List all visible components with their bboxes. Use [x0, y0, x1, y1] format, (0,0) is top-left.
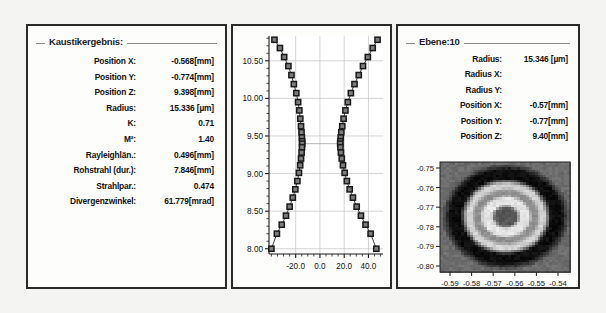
- caustic-field-row: Strahlpar.:0.474: [32, 181, 219, 197]
- data-point-marker: [295, 178, 300, 183]
- profile-x-tick-label: -0.54: [549, 279, 566, 287]
- caustic-panel-title: Kaustikergebnis:: [45, 36, 127, 47]
- y-axis-tick-label: 9.00: [247, 170, 263, 179]
- caustic-field-row: K:0.71: [32, 118, 219, 134]
- caustic-field-label: Position X:: [32, 56, 144, 66]
- plane-field-label: Radius:: [398, 54, 510, 64]
- caustic-field-label: K:: [32, 118, 144, 128]
- profile-y-tick-label: -0.77: [417, 203, 434, 212]
- caustic-plot-area[interactable]: 8.008.509.009.5010.0010.50-20.00.020.040…: [233, 26, 390, 287]
- caustic-field-label: Position Z:: [32, 87, 144, 97]
- data-point-marker: [363, 222, 368, 227]
- data-point-marker: [365, 54, 370, 59]
- data-point-marker: [272, 37, 277, 42]
- data-point-marker: [298, 124, 303, 129]
- plane-field-list: Radius:15.346 [µm]Radius X:Radius Y:Posi…: [398, 54, 573, 146]
- x-axis-tick-label: 0.0: [314, 262, 326, 271]
- plane-field-label: Position X:: [398, 100, 510, 110]
- plane-field-value: 9.40[mm]: [510, 131, 573, 141]
- caustic-field-row: Divergenzwinkel:61.779[mrad]: [32, 196, 219, 212]
- data-point-marker: [340, 163, 345, 168]
- data-point-marker: [347, 187, 352, 192]
- profile-x-tick-label: -0.59: [441, 279, 458, 287]
- data-point-marker: [297, 108, 302, 113]
- caustic-field-label: Rayleighlän.:: [32, 150, 144, 160]
- caustic-field-value: 0.474: [144, 181, 219, 191]
- data-point-marker: [298, 116, 303, 121]
- data-point-marker: [287, 204, 292, 209]
- caustic-field-value: 0.496[mm]: [144, 150, 219, 160]
- plane-groupbox-header: Ebene:10: [406, 36, 570, 37]
- data-point-marker: [289, 72, 294, 77]
- data-point-marker: [296, 100, 301, 105]
- plane-field-label: Position Y:: [398, 116, 510, 126]
- caustic-field-value: -0.774[mm]: [144, 72, 219, 82]
- beam-profile-area[interactable]: -0.75-0.76-0.77-0.78-0.79-0.80-0.59-0.58…: [402, 154, 578, 287]
- y-axis-tick-label: 8.50: [247, 207, 263, 216]
- caustic-field-label: Rohstrahl (dur.):: [32, 165, 144, 175]
- caustic-groupbox-header: Kaustikergebnis:: [36, 36, 217, 37]
- data-point-marker: [341, 116, 346, 121]
- profile-x-tick-label: -0.57: [485, 279, 502, 287]
- plane-field-row: Radius X:: [398, 69, 573, 84]
- plane-field-value: -0.57[mm]: [510, 100, 573, 110]
- profile-x-tick-label: -0.56: [506, 279, 523, 287]
- data-point-marker: [338, 145, 343, 150]
- data-point-marker: [293, 187, 298, 192]
- data-point-marker: [354, 204, 359, 209]
- plane-field-row: Radius Y:: [398, 85, 573, 100]
- caustic-plot-svg: 8.008.509.009.5010.0010.50-20.00.020.040…: [233, 26, 390, 287]
- plane-field-value: -0.77[mm]: [510, 116, 573, 126]
- data-point-marker: [269, 246, 274, 251]
- data-point-marker: [350, 195, 355, 200]
- caustic-field-row: Radius:15.336 [µm]: [32, 103, 219, 119]
- caustic-field-value: 0.71: [144, 118, 219, 128]
- data-point-marker: [290, 195, 295, 200]
- data-point-marker: [339, 130, 344, 135]
- profile-y-tick-label: -0.80: [417, 262, 434, 271]
- caustic-field-row: M²:1.40: [32, 134, 219, 150]
- caustic-field-row: Rayleighlän.:0.496[mm]: [32, 150, 219, 166]
- data-point-marker: [339, 156, 344, 161]
- data-point-marker: [283, 213, 288, 218]
- data-point-marker: [282, 54, 287, 59]
- data-point-marker: [299, 150, 304, 155]
- data-point-marker: [286, 63, 291, 68]
- caustic-field-row: Position Z:9.398[mm]: [32, 87, 219, 103]
- data-point-marker: [340, 124, 345, 129]
- x-axis-tick-label: 20.0: [336, 262, 352, 271]
- data-point-marker: [279, 222, 284, 227]
- profile-x-tick-label: -0.58: [463, 279, 480, 287]
- application-window: Kaustikergebnis: Position X:-0.568[mm]Po…: [0, 0, 606, 313]
- data-point-marker: [368, 231, 373, 236]
- caustic-field-label: Radius:: [32, 103, 144, 113]
- plane-field-row: Position Y:-0.77[mm]: [398, 116, 573, 131]
- data-point-marker: [370, 45, 375, 50]
- caustic-field-label: Strahlpar.:: [32, 181, 144, 191]
- data-point-marker: [344, 178, 349, 183]
- data-point-marker: [296, 170, 301, 175]
- caustic-field-list: Position X:-0.568[mm]Position Y:-0.774[m…: [32, 56, 219, 212]
- caustic-field-value: -0.568[mm]: [144, 56, 219, 66]
- data-point-marker: [375, 37, 380, 42]
- data-point-marker: [294, 91, 299, 96]
- caustic-field-label: M²:: [32, 134, 144, 144]
- data-point-marker: [358, 213, 363, 218]
- caustic-field-row: Position X:-0.568[mm]: [32, 56, 219, 72]
- data-point-marker: [291, 82, 296, 87]
- data-point-marker: [298, 163, 303, 168]
- beam-profile-pixels: [440, 162, 571, 273]
- caustic-field-label: Divergenzwinkel:: [32, 196, 144, 206]
- profile-y-tick-label: -0.75: [417, 164, 434, 173]
- data-point-marker: [298, 156, 303, 161]
- caustic-field-row: Rohstrahl (dur.):7.846[mm]: [32, 165, 219, 181]
- y-axis-tick-label: 10.00: [243, 94, 264, 103]
- caustic-field-value: 61.779[mrad]: [144, 196, 219, 206]
- data-point-marker: [352, 82, 357, 87]
- plane-field-value: 15.346 [µm]: [510, 54, 573, 64]
- caustic-field-row: Position Y:-0.774[mm]: [32, 72, 219, 88]
- x-axis-tick-label: -20.0: [286, 262, 305, 271]
- caustic-plot-panel: 8.008.509.009.5010.0010.50-20.00.020.040…: [231, 24, 392, 289]
- data-point-marker: [343, 108, 348, 113]
- plane-result-panel: Ebene:10 Radius:15.346 [µm]Radius X:Radi…: [396, 24, 580, 289]
